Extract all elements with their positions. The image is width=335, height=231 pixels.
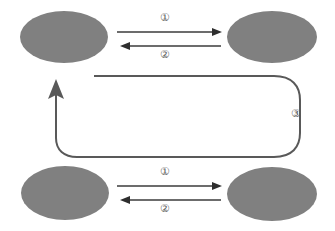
bottom-forward-arrowhead: [212, 182, 222, 190]
return-loop-path: [56, 76, 300, 157]
node-bottom-left[interactable]: [21, 166, 109, 220]
node-bottom-right[interactable]: [227, 167, 317, 221]
edge-label-bottom-forward: ①: [160, 166, 170, 177]
edge-label-top-back: ②: [160, 49, 170, 60]
edge-label-top-forward: ①: [160, 12, 170, 23]
edge-label-bottom-back: ②: [160, 203, 170, 214]
top-forward-arrowhead: [212, 28, 222, 36]
edge-label-return-loop: ③: [291, 108, 301, 119]
node-top-left[interactable]: [20, 11, 108, 63]
diagram-canvas: ① ② ① ② ③: [0, 0, 335, 231]
diagram-svg: [0, 0, 335, 231]
bottom-back-arrowhead: [120, 196, 130, 204]
top-back-arrowhead: [120, 42, 130, 50]
node-top-right[interactable]: [227, 11, 317, 63]
